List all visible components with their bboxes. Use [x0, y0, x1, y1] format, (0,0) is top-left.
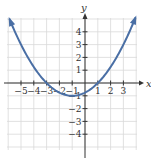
y-tick-label: −4 [68, 129, 82, 139]
x-tick-label: 3 [121, 86, 127, 96]
x-tick-label: −4 [27, 86, 41, 96]
y-axis-arrow-icon [83, 13, 88, 19]
y-tick-label: 2 [76, 53, 82, 63]
parabola-graph: −5−4−3−2−1123−4−3−2−11234 x y [0, 0, 151, 158]
x-tick-label: 2 [108, 86, 114, 96]
y-tick-label: −2 [68, 104, 81, 114]
x-tick-label: −5 [14, 86, 28, 96]
x-axis-arrow-icon [139, 81, 144, 86]
y-tick-label: 4 [76, 27, 82, 37]
curve-arrowhead-icon [9, 17, 15, 27]
y-tick-label: 3 [76, 40, 82, 50]
curve-arrowhead-icon [130, 16, 136, 26]
y-tick-label: −3 [68, 117, 82, 127]
y-axis-label: y [80, 2, 87, 13]
x-tick-label: 1 [95, 86, 101, 96]
x-axis-label: x [146, 78, 151, 89]
y-tick-label: 1 [76, 65, 82, 75]
